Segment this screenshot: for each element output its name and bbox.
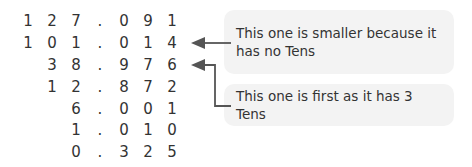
arrows bbox=[0, 0, 472, 167]
arrow-to-101 bbox=[191, 37, 231, 49]
arrow-to-38 bbox=[191, 59, 231, 106]
